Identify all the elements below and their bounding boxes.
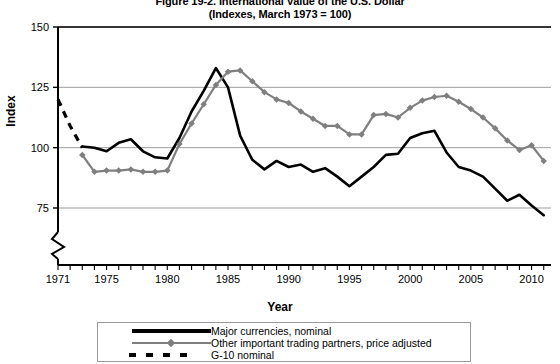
legend-label: Other important trading partners, price …	[211, 337, 432, 349]
series-marker	[140, 169, 147, 176]
y-axis-tick-label: 150	[31, 21, 49, 33]
legend-key-solid-line-icon	[98, 325, 211, 337]
data-series-layer	[58, 67, 547, 215]
series-marker	[431, 94, 438, 101]
y-axis-tick-label: 100	[31, 142, 49, 154]
y-axis-tick-labels: 75100125150	[31, 21, 49, 214]
gridlines	[53, 27, 551, 208]
figure-container: Figure 19-2. International Value of the …	[0, 0, 560, 364]
y-axis-tick-label: 125	[31, 81, 49, 93]
plot-area: 75100125150 1971197519801985199019952000…	[0, 0, 560, 300]
series-marker	[115, 167, 122, 174]
y-axis-tick-label: 75	[37, 202, 49, 214]
x-axis-tick-label: 2000	[398, 273, 422, 285]
x-axis-tick-label: 2010	[519, 273, 543, 285]
series-marker	[103, 167, 110, 174]
series-marker	[164, 167, 171, 174]
legend: Major currencies, nominal Other importan…	[97, 322, 471, 362]
x-axis-title: Year	[0, 300, 560, 314]
x-axis-tick-labels: 197119751980198519901995200020052010	[46, 273, 544, 285]
legend-label: Major currencies, nominal	[211, 325, 331, 337]
x-axis-tick-label: 2005	[459, 273, 483, 285]
legend-item-g10-nominal: G-10 nominal	[98, 349, 274, 361]
series-marker	[152, 169, 159, 176]
series-marker	[383, 111, 390, 118]
x-axis-tick-label: 1990	[276, 273, 300, 285]
series-line-0	[82, 68, 543, 215]
legend-key-marker-line-icon	[98, 337, 211, 349]
legend-item-major-currencies: Major currencies, nominal	[98, 325, 331, 337]
x-axis-tick-label: 1995	[337, 273, 361, 285]
x-axis-tick-label: 1980	[155, 273, 179, 285]
legend-label: G-10 nominal	[211, 349, 274, 361]
legend-item-other-trading-partners: Other important trading partners, price …	[98, 337, 432, 349]
axis-lines	[52, 27, 551, 265]
x-axis-tick-label: 1975	[94, 273, 118, 285]
x-axis-tick-label: 1971	[46, 273, 70, 285]
x-axis-tick-label: 1985	[216, 273, 240, 285]
series-line-2	[58, 99, 82, 147]
y-axis-title: Index	[4, 81, 18, 141]
legend-key-dashed-line-icon	[98, 349, 211, 361]
chart-svg: 75100125150 1971197519801985199019952000…	[0, 0, 560, 300]
series-marker	[128, 166, 135, 173]
